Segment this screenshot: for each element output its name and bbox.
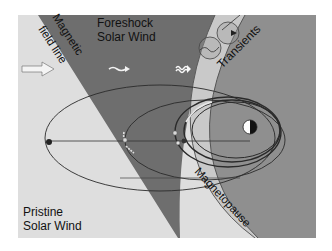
foreshock-label-1: Foreshock [97,16,154,30]
pristine-label-2: Solar Wind [23,219,82,233]
spacecraft-marker-icon [123,138,127,142]
pristine-label-1: Pristine [23,205,63,219]
spacecraft-marker-icon [173,131,177,135]
earth-icon [243,120,257,134]
spacecraft-marker-icon [182,139,187,144]
magnetosphere-diagram: Magnetic field line Foreshock Solar Wind… [0,0,332,251]
spacecraft-marker-icon [176,141,180,145]
foreshock-label-2: Solar Wind [97,30,156,44]
spacecraft-marker-icon [46,139,52,145]
